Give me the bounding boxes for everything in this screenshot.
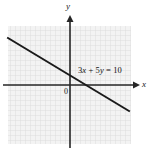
origin-label: 0 — [64, 88, 68, 96]
y-axis-arrow-icon — [67, 15, 74, 22]
equation-annotation: 3x + 5y = 10 — [78, 66, 122, 75]
y-axis-label: y — [66, 2, 70, 11]
equation-constant: 10 — [113, 65, 122, 75]
x-axis-arrow-icon — [133, 81, 140, 88]
coordinate-plane-svg — [0, 0, 150, 153]
equation-equals: = — [104, 65, 113, 75]
equation-plus: + — [86, 65, 95, 75]
graph-figure: y x 0 3x + 5y = 10 — [0, 0, 150, 153]
x-axis-label: x — [142, 80, 146, 89]
